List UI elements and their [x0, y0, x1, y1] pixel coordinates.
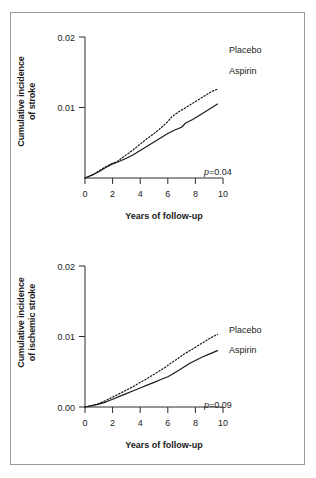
- x-tick-label-bottom-2: 4: [138, 418, 143, 428]
- y-tick-label-top-1: 0.01: [57, 103, 75, 113]
- plot-area-bottom: 0.02 0.01 0.00 0 2 4 6 8 10 Placebo Aspi…: [11, 240, 306, 466]
- p-value-annotation-top: p=0.04: [204, 167, 232, 177]
- x-tick-label-bottom-0: 0: [82, 418, 87, 428]
- x-tick-label-top-3: 6: [165, 189, 170, 199]
- chart-panel-ischemic-stroke: Cumulative incidence of ischemic stroke …: [11, 240, 306, 466]
- x-tick-label-top-1: 2: [110, 189, 115, 199]
- x-tick-label-bottom-1: 2: [110, 418, 115, 428]
- y-tick-label-bottom-2: 0.00: [57, 403, 75, 413]
- x-tick-label-bottom-5: 10: [218, 418, 228, 428]
- series-label-aspirin-top: Aspirin: [229, 66, 257, 76]
- series-label-placebo-top: Placebo: [229, 45, 262, 55]
- curve-placebo-top: [85, 89, 217, 178]
- figure-frame: Cumulative incidence of stroke 0.02 0.01…: [10, 12, 305, 465]
- series-label-placebo-bottom: Placebo: [229, 325, 262, 335]
- chart-panel-stroke: Cumulative incidence of stroke 0.02 0.01…: [11, 13, 306, 239]
- x-tick-label-top-2: 4: [138, 189, 143, 199]
- x-tick-label-top-4: 8: [193, 189, 198, 199]
- y-tick-label-top-0: 0.02: [57, 33, 75, 43]
- x-tick-label-top-5: 10: [218, 189, 228, 199]
- x-axis-label-bottom: Years of follow-up: [79, 440, 249, 450]
- x-tick-label-bottom-3: 6: [165, 418, 170, 428]
- x-tick-label-bottom-4: 8: [193, 418, 198, 428]
- y-tick-label-bottom-1: 0.01: [57, 332, 75, 342]
- series-label-aspirin-bottom: Aspirin: [229, 345, 257, 355]
- y-tick-label-bottom-0: 0.02: [57, 262, 75, 272]
- plot-area-top: 0.02 0.01 0 2 4 6 8 10 Placebo Aspirin: [11, 13, 306, 239]
- p-value-text-bottom: =0.09: [209, 400, 232, 410]
- x-axis-label-top: Years of follow-up: [79, 211, 249, 221]
- x-tick-label-top-0: 0: [82, 189, 87, 199]
- p-value-annotation-bottom: p=0.09: [204, 400, 232, 410]
- p-value-text-top: =0.04: [209, 167, 232, 177]
- curve-aspirin-bottom: [85, 351, 217, 407]
- curve-placebo-bottom: [85, 334, 217, 407]
